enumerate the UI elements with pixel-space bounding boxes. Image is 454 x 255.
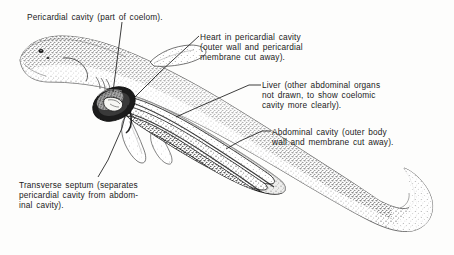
label-abdominal-cavity: Abdominal cavity (outer body wall and me… <box>272 127 394 147</box>
caudal-notch <box>400 193 409 208</box>
eye <box>38 49 43 53</box>
shark-coelom-figure: Pericardial cavity (part of coelom). Hea… <box>0 0 454 255</box>
label-transverse-septum: Transverse septum (separates pericardial… <box>19 180 138 211</box>
label-liver: Liver (other abdominal organs not drawn,… <box>262 80 380 111</box>
label-heart: Heart in pericardial cavity (outer wall … <box>200 32 303 63</box>
label-pericardial-cavity: Pericardial cavity (part of coelom). <box>27 12 163 22</box>
spiracle <box>47 57 50 59</box>
